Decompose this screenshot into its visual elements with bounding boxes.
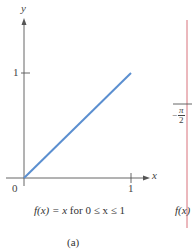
sign: −	[172, 111, 177, 119]
caption-function: f(x) = x	[34, 204, 67, 216]
function-line	[24, 73, 131, 178]
caption-b-partial: f(x)	[175, 204, 190, 216]
numerator: π	[179, 106, 184, 114]
denominator: 2	[179, 116, 184, 124]
panel-a	[6, 18, 150, 186]
x-axis-label: x	[152, 169, 157, 181]
x-axis-arrow-icon	[143, 176, 150, 181]
origin-label: 0	[12, 182, 18, 194]
y-tick-label: 1	[13, 66, 19, 78]
x-tick-label: 1	[128, 182, 134, 194]
caption-domain: for 0 ≤ x ≤ 1	[70, 204, 125, 216]
y-axis-label: y	[21, 2, 26, 14]
panel-label-a: (a)	[67, 236, 79, 248]
caption-a: f(x) = x for 0 ≤ x ≤ 1	[34, 204, 125, 216]
y-axis-arrow-icon	[22, 18, 27, 25]
